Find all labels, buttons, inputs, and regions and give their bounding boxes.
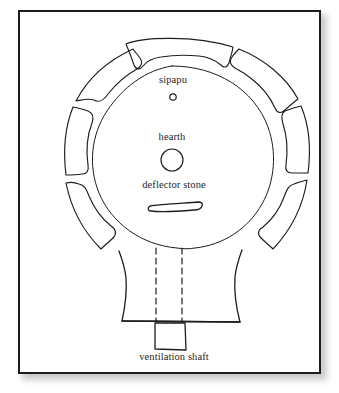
sipapu-label: sipapu bbox=[159, 74, 187, 85]
sipapu-hole bbox=[170, 94, 176, 100]
ventilation-guide-lines bbox=[156, 248, 182, 322]
figure-canvas: sipapu hearth deflector stone ventilatio… bbox=[0, 0, 339, 393]
antechamber bbox=[119, 250, 242, 322]
kiva-plan-drawing bbox=[18, 10, 321, 374]
ventilation-shaft-label: ventilation shaft bbox=[139, 351, 209, 362]
hearth-circle bbox=[161, 149, 183, 171]
hearth-label: hearth bbox=[159, 131, 186, 142]
deflector-stone-label: deflector stone bbox=[142, 179, 206, 190]
deflector-stone-shape bbox=[148, 202, 202, 211]
ventilation-shaft-opening bbox=[155, 323, 186, 350]
